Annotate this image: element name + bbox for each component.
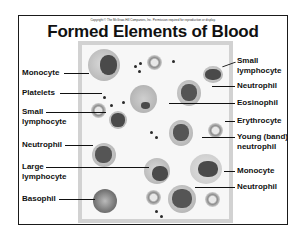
slide-frame: Copyright © The McGraw-Hill Companies, I… bbox=[18, 15, 288, 225]
leader-line bbox=[195, 187, 235, 188]
leader-line bbox=[46, 167, 149, 168]
monocyte-cell bbox=[88, 49, 120, 81]
label-small-lymphocyte-left: Small lymphocyte bbox=[22, 107, 66, 127]
eosinophil-cell bbox=[130, 85, 157, 113]
small-lymphocyte-cell bbox=[203, 66, 223, 83]
label-neutrophil-right-1: Neutrophil bbox=[237, 81, 277, 91]
platelet bbox=[139, 62, 142, 65]
leader-line bbox=[65, 145, 93, 146]
monocyte-cell bbox=[190, 154, 222, 184]
platelet bbox=[155, 136, 158, 139]
neutrophil-cell bbox=[92, 143, 116, 167]
leader-line bbox=[60, 93, 102, 94]
basophil-cell bbox=[93, 189, 117, 213]
leader-line bbox=[225, 121, 235, 122]
leader-line bbox=[46, 112, 106, 113]
platelet bbox=[110, 104, 113, 107]
blood-cell-micrograph bbox=[78, 41, 233, 223]
label-basophil: Basophil bbox=[22, 194, 56, 204]
label-monocyte-right: Monocyte bbox=[237, 166, 274, 176]
leader-line bbox=[64, 73, 89, 74]
label-small-lymphocyte-right: Small lymphocyte bbox=[237, 56, 281, 76]
platelet bbox=[138, 70, 141, 73]
label-young-band-neutrophil: Young (band) neutrophil bbox=[237, 132, 288, 152]
erythrocyte-cell bbox=[146, 190, 161, 205]
leader-line bbox=[59, 199, 95, 200]
platelet bbox=[122, 101, 125, 104]
label-platelets: Platelets bbox=[22, 88, 55, 98]
leader-line bbox=[202, 137, 235, 138]
platelet bbox=[160, 215, 163, 218]
slide-title: Formed Elements of Blood bbox=[19, 22, 287, 42]
platelet bbox=[103, 96, 106, 99]
platelet bbox=[150, 131, 153, 134]
label-neutrophil-right-2: Neutrophil bbox=[237, 182, 277, 192]
leader-line bbox=[224, 171, 235, 172]
erythrocyte-cell bbox=[208, 123, 223, 138]
label-neutrophil-left: Neutrophil bbox=[22, 140, 62, 150]
erythrocyte-cell bbox=[147, 55, 162, 70]
small-lymphocyte-cell bbox=[109, 111, 127, 129]
leader-line bbox=[212, 86, 235, 87]
erythrocyte-cell bbox=[91, 103, 106, 118]
band-neutrophil-cell bbox=[169, 120, 193, 146]
label-erythrocyte: Erythrocyte bbox=[237, 116, 281, 126]
platelet bbox=[155, 210, 158, 213]
label-large-lymphocyte: Large lymphocyte bbox=[22, 162, 66, 182]
label-eosinophil: Eosinophil bbox=[237, 98, 278, 108]
leader-line bbox=[169, 103, 235, 104]
platelet bbox=[134, 65, 137, 68]
platelet bbox=[172, 60, 175, 63]
erythrocyte-cell bbox=[205, 192, 220, 207]
neutrophil-cell bbox=[168, 185, 196, 213]
label-monocyte: Monocyte bbox=[22, 68, 59, 78]
large-lymphocyte-cell bbox=[144, 158, 170, 184]
